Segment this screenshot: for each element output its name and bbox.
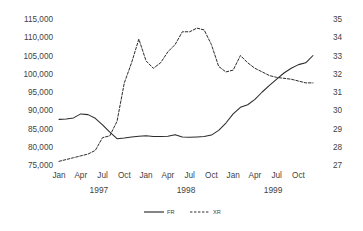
dual-axis-line-chart: 115,000110,000105,000100,00095,00090,000…	[0, 0, 363, 231]
x-axis-tick: Jul	[184, 171, 195, 180]
right-axis-tick: 33	[333, 52, 343, 61]
left-axis-tick: 105,000	[23, 52, 53, 61]
x-axis-tick: Apr	[161, 171, 174, 180]
left-axis-tick: 110,000	[24, 33, 53, 42]
right-axis-tick: 27	[333, 161, 343, 170]
right-axis-tick: 30	[333, 106, 343, 115]
left-axis-tick: 115,000	[24, 15, 53, 24]
x-axis-tick: Oct	[118, 171, 131, 180]
x-axis-tick: Apr	[249, 171, 262, 180]
x-axis-tick: Jan	[227, 171, 241, 180]
right-axis-tick: 32	[333, 70, 343, 79]
chart-container: 115,000110,000105,000100,00095,00090,000…	[0, 0, 363, 231]
x-axis-tick: Jul	[97, 171, 108, 180]
left-axis-tick: 90,000	[28, 106, 53, 115]
x-axis-tick: Jan	[52, 171, 66, 180]
right-axis-tick: 34	[333, 33, 343, 42]
legend-label-fr: FR	[167, 209, 174, 215]
legend-label-xr: XR	[213, 209, 221, 215]
right-axis-tick: 28	[333, 143, 343, 152]
left-axis-tick: 95,000	[28, 88, 53, 97]
right-axis-tick: 35	[333, 15, 343, 24]
right-axis-tick: 29	[333, 125, 343, 134]
x-axis-tick: Oct	[205, 171, 218, 180]
x-axis-tick: Apr	[74, 171, 87, 180]
chart-background	[0, 0, 363, 231]
x-axis-year-label: 1997	[90, 185, 109, 195]
left-axis-tick: 75,000	[28, 161, 53, 170]
right-axis-tick-labels: 353433323130292827	[333, 15, 343, 170]
x-axis-year-label: 1999	[264, 185, 283, 195]
x-axis-tick: Jan	[139, 171, 153, 180]
left-axis-tick: 100,000	[23, 70, 53, 79]
left-axis-tick-labels: 115,000110,000105,000100,00095,00090,000…	[23, 15, 53, 170]
left-axis-tick: 80,000	[28, 143, 53, 152]
left-axis-tick: 85,000	[28, 125, 53, 134]
x-axis-tick: Oct	[292, 171, 305, 180]
x-axis-year-label: 1998	[177, 185, 196, 195]
x-axis-tick: Jul	[271, 171, 282, 180]
right-axis-tick: 31	[333, 88, 343, 97]
